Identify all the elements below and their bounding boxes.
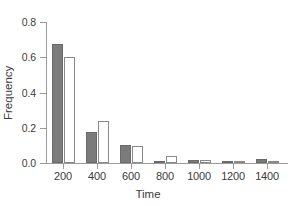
bar-series-filled-1200	[222, 161, 233, 163]
bar-series-hollow-400	[98, 121, 109, 163]
bar-series-filled-600	[120, 145, 131, 163]
bar-series-hollow-1000	[200, 160, 211, 163]
bar-series-hollow-1400	[268, 161, 279, 163]
y-axis-tick-label: 0.4	[0, 88, 36, 99]
y-axis-tick-label: 0.2	[0, 123, 36, 134]
x-axis-tick	[233, 164, 234, 169]
x-axis-title: Time	[0, 188, 296, 200]
bar-series-filled-800	[154, 161, 165, 163]
x-axis-tick	[165, 164, 166, 169]
x-axis-tick	[267, 164, 268, 169]
x-axis-tick	[97, 164, 98, 169]
plot-area	[46, 22, 284, 163]
y-axis-tick-label: 0.8	[0, 17, 36, 28]
bar-series-hollow-200	[64, 57, 75, 163]
x-axis-line	[46, 163, 288, 164]
bar-series-filled-200	[52, 44, 63, 163]
bar-series-filled-400	[86, 132, 97, 163]
frequency-vs-time-bar-chart: Frequency 0.00.20.40.60.8 20040060080010…	[0, 0, 296, 206]
x-axis-tick	[199, 164, 200, 169]
bar-series-filled-1000	[188, 160, 199, 163]
bar-series-filled-1400	[256, 159, 267, 163]
bar-series-hollow-1200	[234, 161, 245, 163]
bar-series-hollow-800	[166, 156, 177, 163]
x-axis-tick-label: 1400	[247, 171, 287, 182]
x-axis-tick	[131, 164, 132, 169]
y-axis-tick-label: 0.0	[0, 158, 36, 169]
bar-series-hollow-600	[132, 146, 143, 163]
x-axis-tick	[63, 164, 64, 169]
y-axis-tick-label: 0.6	[0, 52, 36, 63]
